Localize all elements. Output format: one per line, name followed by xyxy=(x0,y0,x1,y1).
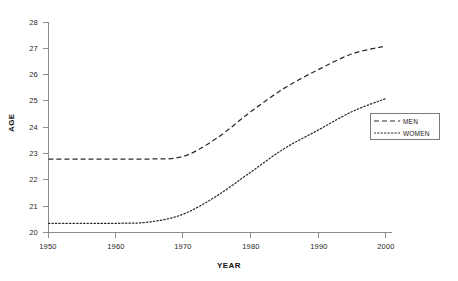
y-tick-label-24: 24 xyxy=(22,123,38,132)
y-tick-label-20: 20 xyxy=(22,228,38,237)
y-tick-label-22: 22 xyxy=(22,175,38,184)
x-tick-label-1970: 1970 xyxy=(174,242,192,251)
y-tick-label-23: 23 xyxy=(22,149,38,158)
legend-item-men: MEN xyxy=(374,115,418,127)
y-tick-label-27: 27 xyxy=(22,44,38,53)
legend-label-men: MEN xyxy=(403,118,418,125)
x-tick-label-1990: 1990 xyxy=(310,242,328,251)
x-axis-ticks xyxy=(49,233,386,239)
y-axis-ticks xyxy=(43,23,49,233)
legend-swatch-dashed-icon xyxy=(374,118,400,124)
chart-legend: MEN WOMEN xyxy=(370,113,440,140)
y-tick-label-26: 26 xyxy=(22,70,38,79)
x-tick-label-1980: 1980 xyxy=(242,242,260,251)
axis-group xyxy=(49,22,393,233)
legend-swatch-dotted-icon xyxy=(374,130,400,136)
legend-label-women: WOMEN xyxy=(403,130,430,137)
chart-canvas xyxy=(0,0,458,281)
x-tick-label-1950: 1950 xyxy=(39,242,57,251)
age-at-first-marriage-line-chart: 28 27 26 25 24 23 22 21 20 1950 1960 197… xyxy=(0,0,458,281)
y-axis-title: AGE xyxy=(7,113,16,132)
x-tick-label-2000: 2000 xyxy=(377,242,395,251)
series-line-men xyxy=(49,46,386,159)
legend-item-women: WOMEN xyxy=(374,127,430,139)
x-axis-title: YEAR xyxy=(0,261,458,270)
y-tick-label-28: 28 xyxy=(22,18,38,27)
series-line-women xyxy=(49,99,386,224)
x-tick-label-1960: 1960 xyxy=(107,242,125,251)
y-tick-label-21: 21 xyxy=(22,202,38,211)
y-tick-label-25: 25 xyxy=(22,96,38,105)
